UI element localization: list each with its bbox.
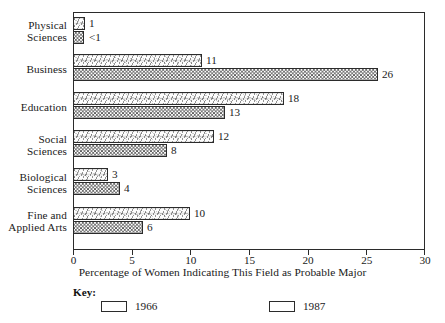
legend-label-1987: 1987 <box>303 301 325 312</box>
bar-1987-education <box>73 106 225 119</box>
bar-value-1987-fine-applied-arts: 6 <box>147 221 153 234</box>
legend-entry-1987: 1987 <box>269 301 325 312</box>
category-label-biological-sciences: Biological Sciences <box>19 171 67 196</box>
bar-1987-fine-applied-arts <box>73 221 143 234</box>
legend-label-1966: 1966 <box>135 301 157 312</box>
bar-1966-biological-sciences <box>73 168 108 181</box>
bar-1966-physical-sciences <box>73 17 85 30</box>
x-tick-label-5: 5 <box>129 254 135 266</box>
bar-value-1966-business: 11 <box>206 54 217 67</box>
x-tick-label-30: 30 <box>419 254 430 266</box>
x-tick-label-0: 0 <box>71 254 77 266</box>
legend-swatch-1987-icon <box>269 301 295 312</box>
bar-value-1987-biological-sciences: 4 <box>124 182 130 195</box>
x-tick-label-15: 15 <box>244 254 255 266</box>
bar-value-1966-social-sciences: 12 <box>218 130 229 143</box>
bar-value-1966-fine-applied-arts: 10 <box>194 207 205 220</box>
bar-1987-physical-sciences <box>73 31 84 44</box>
bar-1987-social-sciences <box>73 144 167 157</box>
legend-entry-1966: 1966 <box>101 301 157 312</box>
x-tick-label-20: 20 <box>303 254 314 266</box>
category-label-fine-applied-arts: Fine and Applied Arts <box>8 209 67 234</box>
x-axis-title: Percentage of Women Indicating This Fiel… <box>0 266 445 278</box>
bar-value-1966-physical-sciences: 1 <box>89 17 95 30</box>
bar-1987-business <box>73 68 378 81</box>
legend-key-title: Key: <box>73 286 96 298</box>
category-label-physical-sciences: Physical Sciences <box>27 19 67 44</box>
bar-1987-biological-sciences <box>73 182 120 195</box>
bar-1966-education <box>73 92 284 105</box>
bar-1966-fine-applied-arts <box>73 207 190 220</box>
bar-value-1966-biological-sciences: 3 <box>112 168 118 181</box>
bar-value-1987-physical-sciences: <1 <box>89 31 101 44</box>
category-label-social-sciences: Social Sciences <box>27 133 67 158</box>
category-label-education: Education <box>21 101 67 113</box>
grouped-bar-chart: Physical Sciences Business Education Soc… <box>0 0 445 323</box>
bar-1966-business <box>73 54 202 67</box>
bar-1966-social-sciences <box>73 130 214 143</box>
x-tick-label-10: 10 <box>185 254 196 266</box>
bar-value-1987-social-sciences: 8 <box>171 144 177 157</box>
legend-swatch-1966-icon <box>101 301 127 312</box>
bar-value-1966-education: 18 <box>288 92 299 105</box>
category-label-business: Business <box>26 63 67 75</box>
bar-value-1987-education: 13 <box>229 106 240 119</box>
x-tick-label-25: 25 <box>361 254 372 266</box>
bar-value-1987-business: 26 <box>382 68 393 81</box>
